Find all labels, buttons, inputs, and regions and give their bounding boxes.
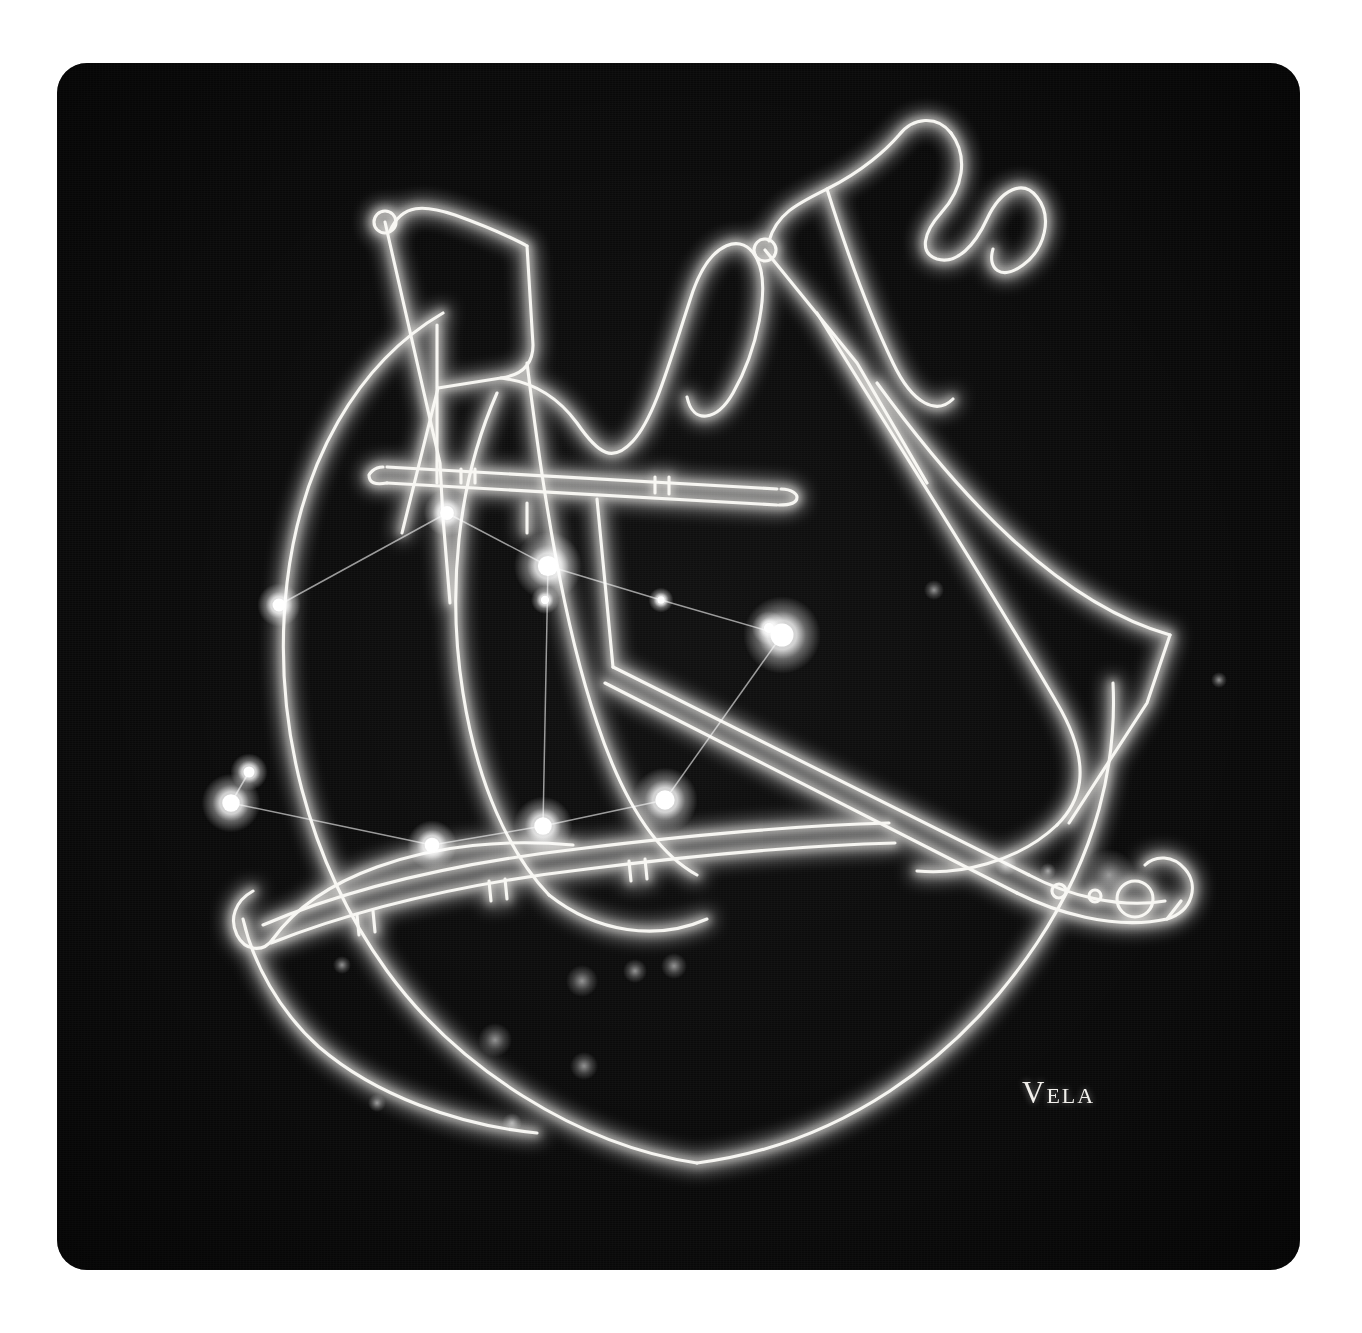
page-root: Vela	[0, 0, 1362, 1333]
star-core	[222, 794, 239, 811]
constellation-link	[231, 803, 432, 845]
star-core	[538, 556, 558, 576]
star-core	[657, 596, 664, 603]
star-core	[425, 838, 440, 853]
constellation-link	[279, 513, 447, 605]
star-core	[541, 596, 549, 604]
star-core	[243, 766, 254, 777]
constellation-link-group	[231, 513, 782, 845]
constellation-name-label: Vela	[1022, 1075, 1095, 1111]
star-core	[764, 623, 774, 633]
star-core	[273, 599, 286, 612]
star-core	[655, 790, 674, 809]
constellation-card: Vela	[57, 63, 1300, 1270]
star-core	[534, 817, 551, 834]
star-core	[440, 506, 454, 520]
constellation-star-layer	[57, 63, 1300, 1270]
